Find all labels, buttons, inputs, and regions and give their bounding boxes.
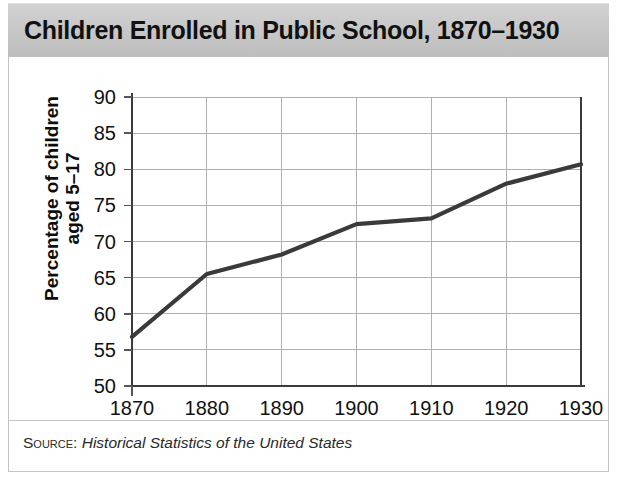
source-divider xyxy=(9,420,608,421)
source-text: Historical Statistics of the United Stat… xyxy=(82,434,353,451)
y-tick-label: 90 xyxy=(94,86,116,108)
x-tick-label: 1890 xyxy=(259,397,304,417)
y-tick-label: 55 xyxy=(94,339,116,361)
x-tick-label: 1910 xyxy=(409,397,454,417)
y-tick-marks xyxy=(124,97,132,386)
y-tick-label: 65 xyxy=(94,267,116,289)
x-tick-label: 1870 xyxy=(110,397,155,417)
line-chart-plot: 90 85 80 75 70 65 60 55 50 1870 1880 189… xyxy=(9,57,608,417)
y-tick-label: 75 xyxy=(94,194,116,216)
y-tick-label: 60 xyxy=(94,303,116,325)
y-tick-labels: 90 85 80 75 70 65 60 55 50 xyxy=(94,86,116,397)
x-tick-label: 1930 xyxy=(559,397,604,417)
chart-title-bar: Children Enrolled in Public School, 1870… xyxy=(8,3,609,57)
source-note: Source: Historical Statistics of the Uni… xyxy=(23,434,352,452)
chart-body-panel: Percentage of children aged 5–17 xyxy=(8,57,609,472)
x-tick-label: 1900 xyxy=(334,397,379,417)
source-label: Source: xyxy=(23,434,77,451)
x-tick-labels: 1870 1880 1890 1900 1910 1920 1930 xyxy=(110,397,604,417)
y-tick-label: 85 xyxy=(94,122,116,144)
x-tick-label: 1880 xyxy=(185,397,230,417)
y-tick-label: 70 xyxy=(94,231,116,253)
y-tick-label: 50 xyxy=(94,375,116,397)
figure-container: Children Enrolled in Public School, 1870… xyxy=(0,0,617,483)
y-tick-label: 80 xyxy=(94,158,116,180)
x-tick-label: 1920 xyxy=(484,397,529,417)
page-title: Children Enrolled in Public School, 1870… xyxy=(8,16,559,45)
